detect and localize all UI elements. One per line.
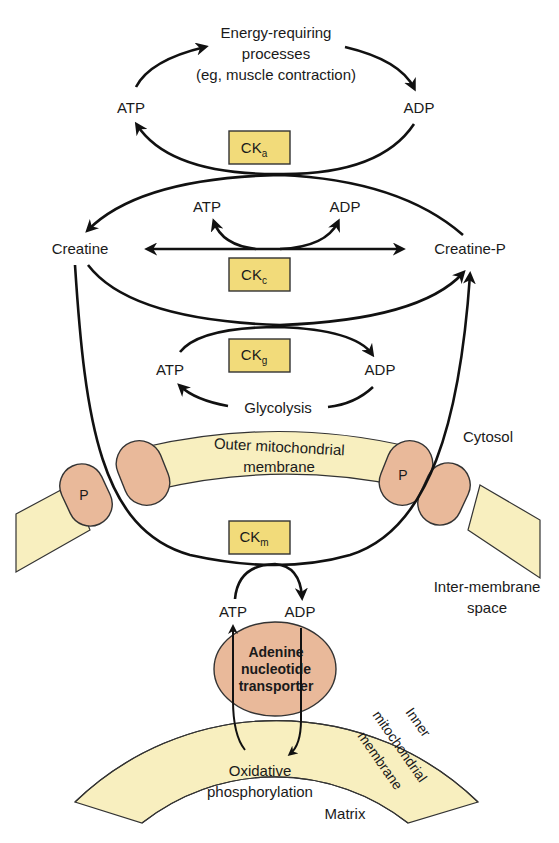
mito-atp-label: ATP <box>219 603 247 620</box>
glycolysis-label: Glycolysis <box>244 399 312 416</box>
enzyme-ckc-box: CKc <box>229 258 290 291</box>
ckc-adp-arc <box>280 222 338 249</box>
pore-label-right: P <box>398 467 407 483</box>
outer-membrane-label-line2: membrane <box>243 458 315 475</box>
ckc-atp-label: ATP <box>193 198 221 215</box>
creatine-kinase-shuttle-diagram: Adenine nucleotide transporter Inner mit… <box>0 0 559 843</box>
enzyme-ckm-box: CKm <box>229 521 290 554</box>
svg-text:Inner: Inner <box>403 705 435 741</box>
ckm-atp-to-adp-arc <box>235 564 302 599</box>
creatine-p-label: Creatine-P <box>434 240 506 257</box>
top-cycle-atp-to-process-arrow <box>136 47 205 87</box>
creatine-p-to-creatine-upper-arc <box>88 175 463 235</box>
outer-membrane-center: P Outer mitochondrial membrane <box>109 432 439 513</box>
glycolysis-atp-label: ATP <box>156 361 184 378</box>
transporter-label-line3: transporter <box>239 678 314 694</box>
pore-label-left: P <box>79 487 88 503</box>
enzyme-ckg-box: CKg <box>229 339 290 372</box>
outer-membrane-left-fragment: P <box>16 457 119 572</box>
creatine-label: Creatine <box>52 240 109 257</box>
transporter-label-line1: Adenine <box>248 644 303 660</box>
svg-text:Energy-requiring: Energy-requiring <box>221 24 332 41</box>
ckc-atp-arc <box>214 222 256 249</box>
cytosol-label: Cytosol <box>463 428 513 445</box>
ckc-adp-label: ADP <box>330 198 361 215</box>
svg-text:processes: processes <box>242 45 310 62</box>
glycolysis-to-atp-arrow <box>180 386 228 406</box>
svg-text:(eg, muscle contraction): (eg, muscle contraction) <box>196 66 356 83</box>
glycolysis-adp-label: ADP <box>365 361 396 378</box>
mito-adp-label: ADP <box>285 603 316 620</box>
top-adp-label: ADP <box>404 99 435 116</box>
intermembrane-label-line1: Inter-membrane <box>434 578 541 595</box>
intermembrane-label-line2: space <box>467 599 507 616</box>
oxphos-label-line2: phosphorylation <box>207 783 313 800</box>
top-atp-label: ATP <box>117 99 145 116</box>
matrix-label: Matrix <box>325 805 366 822</box>
enzyme-cka-box: CKa <box>229 131 290 164</box>
oxphos-label-line1: Oxidative <box>229 762 292 779</box>
adp-to-glycolysis-arc <box>328 387 373 407</box>
energy-requiring-processes-label: Energy-requiring processes (eg, muscle c… <box>196 24 356 83</box>
